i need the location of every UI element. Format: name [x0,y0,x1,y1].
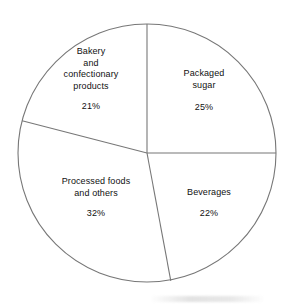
slice-label-processed-foods: Processed foods and others [44,176,148,199]
slice-value-packaged-sugar: 25% [163,102,245,113]
scan-artifact [150,296,265,302]
slice-label-packaged-sugar: Packaged sugar [163,68,245,91]
pie-chart: Bakery and confectionary products 21% Pa… [0,0,291,306]
slice-label-beverages: Beverages [168,187,250,199]
slice-value-beverages: 22% [168,208,250,219]
pie-chart-graphic [0,0,291,306]
slice-label-bakery: Bakery and confectionary products [45,46,137,92]
slice-value-bakery: 21% [45,101,137,112]
slice-value-processed-foods: 32% [44,208,148,219]
